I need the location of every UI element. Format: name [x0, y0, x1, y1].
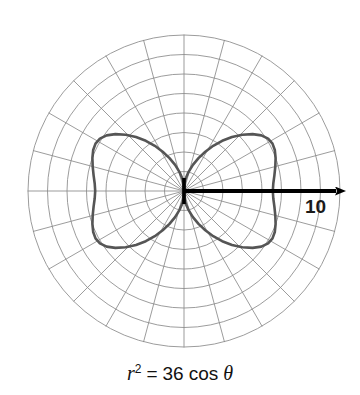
polar-graph-figure: 10 r2=36cosθ: [0, 0, 360, 395]
caption-function: cos: [189, 363, 219, 384]
caption-coefficient: 36: [163, 363, 184, 384]
equation-caption: r2=36cosθ: [0, 362, 360, 385]
caption-equals: =: [146, 363, 157, 384]
caption-variable: r: [127, 362, 135, 384]
caption-angle: θ: [223, 362, 233, 384]
axis-max-label: 10: [305, 196, 326, 218]
caption-exponent: 2: [135, 362, 142, 376]
